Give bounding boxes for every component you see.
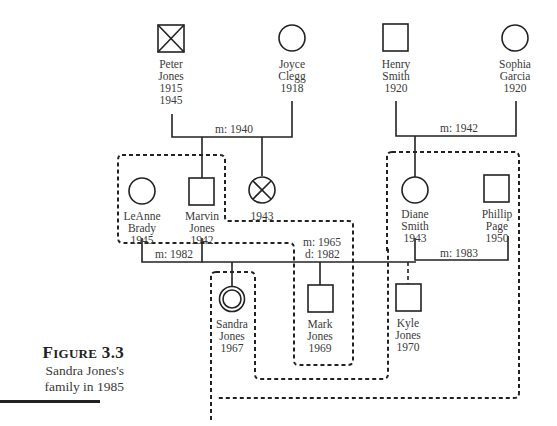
marriage-label-1983: m: 1983 (440, 247, 478, 259)
leanne-brady-symbol (129, 178, 155, 204)
label-sophia-garcia: Sophia Garcia 1920 (499, 58, 531, 94)
figure-caption: FIGURE 3.3 Sandra Jones's family in 1985 (0, 343, 124, 395)
henry-smith-symbol (383, 24, 408, 51)
marriage-label-1965: m: 1965 (303, 236, 341, 248)
caption-line-2: family in 1985 (0, 379, 124, 395)
caption-line-1: Sandra Jones's (0, 363, 124, 379)
deceased-1943-symbol (249, 177, 275, 203)
sophia-garcia-symbol (502, 25, 528, 51)
sandra-jones-symbol (220, 287, 245, 312)
label-deceased-1943: 1943 (251, 210, 274, 222)
diane-smith-symbol (402, 177, 428, 203)
mark-jones-symbol (308, 285, 333, 312)
label-phillip-page: Phillip Page 1950 (482, 208, 513, 244)
label-mark-jones: Mark Jones 1969 (307, 318, 333, 354)
label-diane-smith: Diane Smith 1943 (401, 208, 428, 244)
marriage-label-1942: m: 1942 (440, 122, 478, 134)
label-peter-jones: Peter Jones 1915 1945 (158, 58, 184, 106)
marvin-jones-symbol (189, 178, 214, 205)
label-kyle-jones: Kyle Jones 1970 (395, 317, 421, 353)
phillip-page-symbol (484, 175, 509, 202)
kyle-jones-symbol (396, 284, 421, 311)
peter-jones-symbol (158, 25, 184, 52)
joyce-clegg-symbol (279, 25, 305, 51)
figure-number: FIGURE 3.3 (0, 343, 124, 363)
caption-rule (0, 400, 100, 403)
divorce-label-1982: d: 1982 (305, 248, 340, 260)
label-joyce-clegg: Joyce Clegg 1918 (278, 58, 305, 94)
household-boundary-diane-left (387, 152, 392, 252)
label-marvin-jones: Marvin Jones 1942 (185, 210, 219, 246)
label-henry-smith: Henry Smith 1920 (382, 58, 411, 94)
household-boundary-sandra (216, 248, 388, 379)
marriage-label-1982: m: 1982 (155, 248, 193, 260)
label-sandra-jones: Sandra Jones 1967 (216, 318, 248, 354)
marriage-label-1940: m: 1940 (215, 123, 253, 135)
label-leanne-brady: LeAnne Brady 1945 (123, 210, 160, 246)
